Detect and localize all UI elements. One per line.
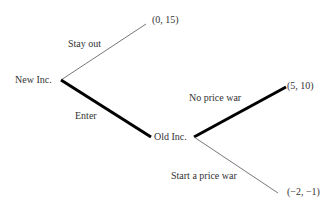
payoff-start-price-war: (−2, −1) [287,187,320,197]
game-tree-lines [0,0,333,206]
label-enter: Enter [75,111,97,121]
branch-stay-out [61,24,146,80]
label-start-price-war: Start a price war [171,171,237,181]
label-stay-out: Stay out [68,39,101,49]
node-new-inc: New Inc. [15,75,52,85]
label-no-price-war: No price war [189,93,241,103]
payoff-no-price-war: (5, 10) [287,81,314,91]
branch-start-price-war [194,137,278,193]
node-old-inc: Old Inc. [154,132,187,142]
payoff-stay-out: (0, 15) [152,15,179,25]
branch-enter [61,80,151,137]
